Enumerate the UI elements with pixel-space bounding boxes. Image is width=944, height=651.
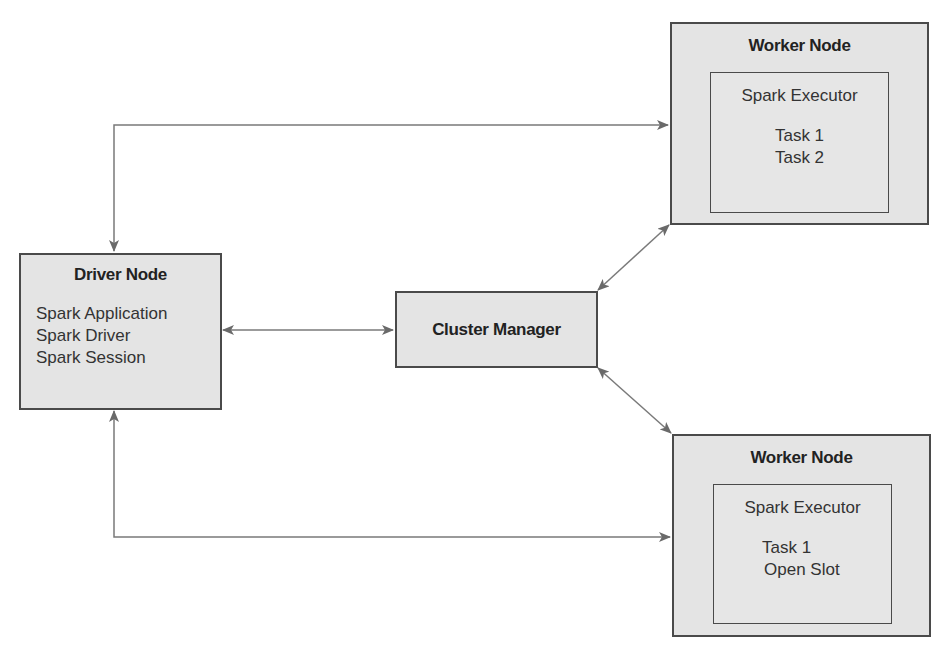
cluster-manager-node: Cluster Manager — [395, 291, 598, 368]
spark-executor-1: Spark Executor Task 1 Task 2 — [710, 72, 889, 213]
executor-2-open-slot: Open Slot — [764, 559, 840, 581]
spark-executor-2: Spark Executor Task 1 Open Slot — [713, 484, 892, 624]
executor-1-task-1: Task 1 — [711, 125, 888, 147]
worker-node-1-title: Worker Node — [672, 36, 927, 56]
executor-2-title: Spark Executor — [714, 497, 891, 519]
worker-node-1: Worker Node Spark Executor Task 1 Task 2 — [670, 22, 929, 225]
arrow-cluster-manager-worker1 — [598, 225, 669, 290]
worker-node-2-title: Worker Node — [674, 448, 929, 468]
driver-item-spark-session: Spark Session — [36, 347, 167, 369]
arrow-driver-worker2 — [114, 411, 670, 537]
executor-1-task-2: Task 2 — [711, 147, 888, 169]
executor-1-title: Spark Executor — [711, 85, 888, 107]
arrow-cluster-manager-worker2 — [598, 368, 671, 433]
arrow-driver-worker1 — [114, 125, 668, 251]
driver-item-spark-application: Spark Application — [36, 303, 167, 325]
driver-item-spark-driver: Spark Driver — [36, 325, 167, 347]
driver-node: Driver Node Spark Application Spark Driv… — [19, 253, 222, 410]
cluster-manager-title: Cluster Manager — [397, 320, 596, 340]
worker-node-2: Worker Node Spark Executor Task 1 Open S… — [672, 434, 931, 637]
executor-2-task-1: Task 1 — [762, 537, 840, 559]
driver-node-title: Driver Node — [21, 265, 220, 285]
